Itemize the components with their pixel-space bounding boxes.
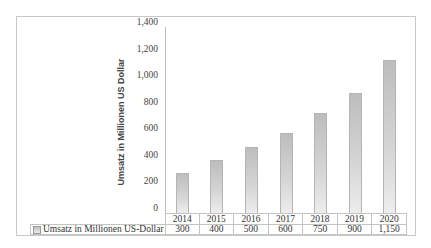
value-cell: 400 xyxy=(200,224,235,235)
bar-2018 xyxy=(314,113,327,213)
bar-2014 xyxy=(176,173,189,213)
y-axis-line xyxy=(165,27,166,213)
y-tick-label: 400 xyxy=(108,150,158,160)
bar-2016 xyxy=(245,147,258,213)
value-cell: 500 xyxy=(234,224,269,235)
y-tick-label: 600 xyxy=(108,123,158,133)
y-tick-label: 1,200 xyxy=(108,44,158,54)
value-cell: 900 xyxy=(338,224,373,235)
value-cell: 300 xyxy=(165,224,200,235)
value-cell: 1,150 xyxy=(372,224,407,235)
bar-2020 xyxy=(383,60,396,213)
y-tick-label: 0 xyxy=(108,203,158,213)
bar-2019 xyxy=(349,93,362,213)
y-tick-label: 800 xyxy=(108,97,158,107)
y-tick-label: 1,000 xyxy=(108,70,158,80)
value-cell: 600 xyxy=(269,224,304,235)
legend-label: Umsatz in Millionen US-Dollar xyxy=(43,224,164,235)
data-table-value-row: 3004005006007509001,150 xyxy=(165,224,407,235)
value-cell: 750 xyxy=(303,224,338,235)
legend-entry: Umsatz in Millionen US-Dollar xyxy=(30,224,165,235)
bar-2015 xyxy=(210,160,223,213)
bar-2017 xyxy=(280,133,293,213)
y-tick-label: 200 xyxy=(108,176,158,186)
y-tick-label: 1,400 xyxy=(108,17,158,27)
legend-swatch-icon xyxy=(33,226,41,234)
